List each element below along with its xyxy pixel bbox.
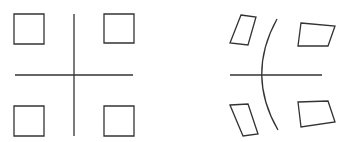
distorted-quad-top-right <box>298 23 335 46</box>
square-top-left <box>14 14 44 44</box>
square-bottom-left <box>14 106 44 136</box>
diagram-svg <box>0 0 349 142</box>
distorted-quad-top-left <box>230 15 256 45</box>
square-top-right <box>104 14 134 43</box>
right-panel-distorted-grid <box>230 15 335 136</box>
square-bottom-right <box>104 106 134 136</box>
distorted-quad-bottom-left <box>230 104 258 136</box>
left-panel-original-grid <box>14 14 134 136</box>
distorted-quad-bottom-right <box>298 101 335 127</box>
distortion-diagram <box>0 0 349 142</box>
